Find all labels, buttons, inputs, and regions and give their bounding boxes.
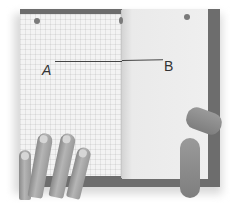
punch-hole-center — [119, 17, 123, 24]
punch-hole-left — [34, 18, 40, 24]
right-hand-thumb — [180, 138, 200, 198]
page-fold — [121, 10, 122, 178]
photo-scene: A B — [0, 0, 232, 203]
segment-left-part — [55, 61, 122, 62]
point-a-label: A — [42, 62, 51, 78]
punch-hole-right — [184, 14, 190, 20]
point-b-label: B — [164, 58, 173, 74]
